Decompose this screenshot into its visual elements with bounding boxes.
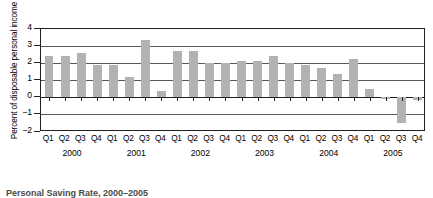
x-axis-tick: [354, 97, 355, 101]
bar[interactable]: [333, 74, 342, 97]
x-axis-tick: [370, 97, 371, 101]
bar-slot: [234, 29, 250, 130]
x-axis-tick: [209, 97, 210, 101]
bar[interactable]: [173, 51, 182, 97]
bar[interactable]: [221, 63, 230, 97]
x-axis-year-label: 2000: [40, 148, 104, 158]
x-axis-year-label: 2001: [104, 148, 168, 158]
bar[interactable]: [365, 89, 374, 97]
bar[interactable]: [205, 63, 214, 97]
bar-slot: [185, 29, 201, 130]
x-axis-tick: [322, 97, 323, 101]
bar-slot: [57, 29, 73, 130]
bar-slot: [314, 29, 330, 130]
x-axis-tick: [97, 97, 98, 101]
x-axis-tick: [113, 97, 114, 101]
x-axis-year-label: 2005: [361, 148, 425, 158]
bar-slot: [41, 29, 57, 130]
bar[interactable]: [141, 40, 150, 98]
bar[interactable]: [269, 56, 278, 97]
bar[interactable]: [349, 59, 358, 97]
y-axis-tick-label: 3: [27, 40, 32, 49]
bar[interactable]: [237, 61, 246, 97]
y-axis-tick-label: 4: [27, 23, 32, 32]
x-axis-tick: [418, 97, 419, 101]
x-axis-tick: [225, 97, 226, 101]
figure-caption: Personal Saving Rate, 2000–2005: [6, 188, 306, 198]
bar[interactable]: [109, 65, 118, 97]
bar[interactable]: [317, 68, 326, 97]
bar[interactable]: [301, 65, 310, 98]
x-axis-year-label: 2003: [233, 148, 297, 158]
bar[interactable]: [61, 56, 70, 97]
x-axis-tick: [49, 97, 50, 101]
bar[interactable]: [125, 77, 134, 98]
bar[interactable]: [189, 51, 198, 97]
x-axis-year-labels: 200020012002200320042005: [40, 148, 425, 160]
bar[interactable]: [253, 61, 262, 97]
x-axis-tick: [145, 97, 146, 101]
x-axis-tick: [338, 97, 339, 101]
x-axis-tick: [402, 97, 403, 101]
x-axis-tick: [306, 97, 307, 101]
y-axis-tick-label: 1: [27, 74, 32, 83]
x-axis-tick: [81, 97, 82, 101]
bar-slot: [378, 29, 394, 130]
x-axis-year-label: 2004: [297, 148, 361, 158]
x-axis-tick: [193, 97, 194, 101]
x-axis-year-label: 2002: [168, 148, 232, 158]
bar-slot: [346, 29, 362, 130]
bar-slot: [137, 29, 153, 130]
y-axis-tick: [34, 131, 40, 132]
bar-slot: [201, 29, 217, 130]
x-axis-tick: [161, 97, 162, 101]
y-axis-title: Percent of disposable personal income: [10, 1, 19, 141]
x-axis-tick: [274, 97, 275, 101]
bar-slot: [105, 29, 121, 130]
bar-slot: [394, 29, 410, 130]
bar[interactable]: [45, 56, 54, 97]
bar-slot: [330, 29, 346, 130]
x-axis-tick: [177, 97, 178, 101]
x-axis-tick: [290, 97, 291, 101]
bar[interactable]: [93, 65, 102, 97]
bar-slot: [89, 29, 105, 130]
bar-slot: [217, 29, 233, 130]
bar[interactable]: [285, 63, 294, 97]
y-axis-tick-label: −2: [22, 126, 32, 135]
bar-slot: [169, 29, 185, 130]
bar-slot: [298, 29, 314, 130]
bar-series: [41, 29, 424, 130]
bar-slot: [121, 29, 137, 130]
x-axis-tick: [65, 97, 66, 101]
bar-slot: [250, 29, 266, 130]
x-axis-tick: [129, 97, 130, 101]
x-axis-tick: [242, 97, 243, 101]
y-axis-tick-label: −1: [22, 108, 32, 117]
x-axis-tick: [258, 97, 259, 101]
bar-slot: [266, 29, 282, 130]
bar-slot: [362, 29, 378, 130]
caption-text: Personal Saving Rate, 2000–2005: [6, 188, 306, 198]
bar-slot: [410, 29, 426, 130]
bar-slot: [73, 29, 89, 130]
chart-figure: Percent of disposable personal income 43…: [0, 0, 433, 198]
bar[interactable]: [77, 53, 86, 98]
x-axis-quarter-labels: Q1Q2Q3Q4Q1Q2Q3Q4Q1Q2Q3Q4Q1Q2Q3Q4Q1Q2Q3Q4…: [40, 133, 425, 145]
plot-area: [40, 28, 425, 131]
bar-slot: [282, 29, 298, 130]
x-axis-tick: [386, 97, 387, 101]
y-axis-tick-label: 2: [27, 57, 32, 66]
x-axis-quarter-label: Q4: [406, 133, 428, 143]
bar-slot: [153, 29, 169, 130]
y-axis-tick-label: 0: [27, 91, 32, 100]
